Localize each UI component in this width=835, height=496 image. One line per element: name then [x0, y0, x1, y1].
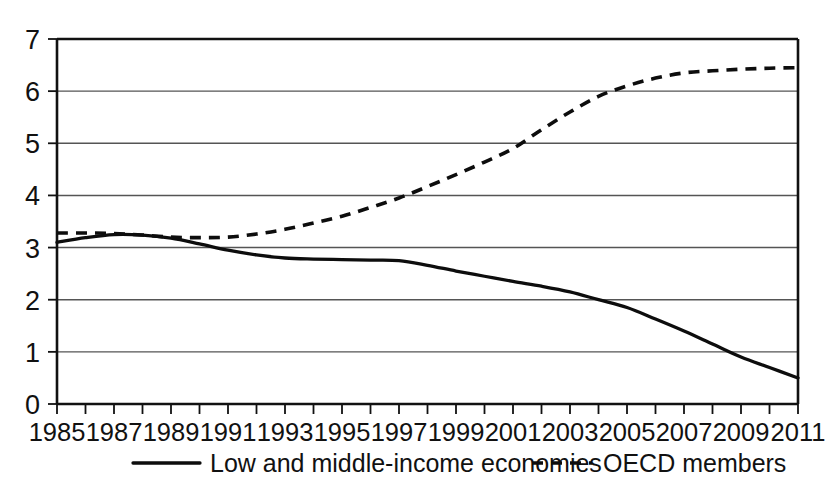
x-tick-label-1993: 1993 — [257, 418, 314, 446]
x-tick-label-2007: 2007 — [656, 418, 713, 446]
x-tick-label-1987: 1987 — [86, 418, 143, 446]
y-tick-label-2: 2 — [25, 286, 40, 316]
y-tick-label-4: 4 — [25, 181, 40, 211]
y-tick-label-6: 6 — [25, 77, 40, 107]
gridlines — [48, 39, 798, 404]
x-tick-label-2001: 2001 — [485, 418, 542, 446]
y-tick-label-7: 7 — [25, 25, 40, 55]
x-tick-label-2003: 2003 — [542, 418, 599, 446]
x-tick-label-1995: 1995 — [314, 418, 371, 446]
series-line-low-and-middle-income-economies — [57, 234, 798, 378]
series-line-oecd-members — [57, 68, 798, 238]
y-tick-label-1: 1 — [25, 338, 40, 368]
legend: Low and middle-income economies OECD mem… — [133, 449, 786, 477]
y-tick-label-0: 0 — [25, 390, 40, 420]
chart-figure: 01234567 1985198719891991199319951997199… — [0, 0, 835, 496]
x-tick-label-1985: 1985 — [29, 418, 86, 446]
x-axis-tick-labels: 1985198719891991199319951997199920012003… — [29, 418, 826, 446]
x-tick-label-1991: 1991 — [200, 418, 257, 446]
x-tick-label-2011: 2011 — [771, 418, 826, 446]
line-chart: 01234567 1985198719891991199319951997199… — [0, 0, 835, 496]
y-tick-label-3: 3 — [25, 234, 40, 264]
x-tick-label-1999: 1999 — [428, 418, 485, 446]
legend-label-low-and-middle-income-economies: Low and middle-income economies — [210, 449, 602, 477]
y-axis-tick-labels: 01234567 — [25, 25, 40, 420]
x-axis-tickmarks — [57, 404, 798, 414]
x-tick-label-2005: 2005 — [599, 418, 656, 446]
x-tick-label-1989: 1989 — [143, 418, 200, 446]
x-tick-label-1997: 1997 — [371, 418, 428, 446]
x-tick-label-2009: 2009 — [713, 418, 770, 446]
legend-label-oecd-members: OECD members — [603, 449, 786, 477]
y-tick-label-5: 5 — [25, 129, 40, 159]
